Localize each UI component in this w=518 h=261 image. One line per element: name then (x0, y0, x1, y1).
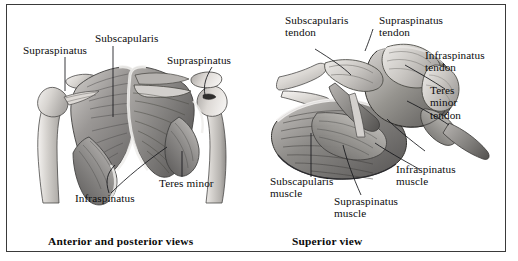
label-infraspinatus-muscle: Infraspinatus muscle (396, 163, 476, 188)
label-supraspinatus-tendon: Supraspinatus tendon (379, 14, 461, 39)
figure-frame: Supraspinatus Subscapularis Supraspinatu… (6, 4, 506, 252)
label-teres-minor-tendon: Teres minor tendon (430, 84, 490, 121)
label-line-2: muscle (334, 207, 366, 219)
label-subscapularis: Subscapularis (95, 32, 158, 44)
label-supraspinatus-anterior: Supraspinatus (23, 44, 87, 56)
label-line-1: Infraspinatus (425, 49, 485, 61)
label-supraspinatus-muscle: Supraspinatus muscle (334, 195, 418, 220)
caption-anterior-posterior-views: Anterior and posterior views (48, 235, 193, 247)
label-line-2: muscle (270, 187, 302, 199)
label-line-2: tendon (379, 26, 410, 38)
label-line-2: tendon (425, 61, 456, 73)
label-supraspinatus-posterior: Supraspinatus (167, 54, 231, 66)
label-line-1: Teres (430, 84, 455, 96)
label-subscapularis-tendon: Subscapularis tendon (285, 14, 363, 39)
label-line-2: minor (430, 96, 457, 108)
label-line-1: Subscapularis (285, 14, 348, 26)
label-infraspinatus: Infraspinatus (75, 192, 135, 204)
label-line-1: Subscapularis (270, 175, 333, 187)
label-line-2: tendon (285, 26, 316, 38)
caption-superior-view: Superior view (292, 235, 362, 247)
leader-supraspinatus-tendon (365, 29, 373, 51)
label-teres-minor: Teres minor (159, 177, 214, 189)
label-line-1: Supraspinatus (334, 195, 398, 207)
panel-anterior-posterior: Supraspinatus Subscapularis Supraspinatu… (7, 5, 259, 251)
label-infraspinatus-tendon: Infraspinatus tendon (425, 49, 505, 74)
label-line-2: muscle (396, 175, 428, 187)
label-line-3: tendon (430, 109, 461, 121)
label-line-1: Infraspinatus (396, 163, 456, 175)
panel-superior-view: Subscapularis tendon Supraspinatus tendo… (259, 5, 507, 251)
anterior-scapula-group (38, 67, 137, 205)
label-line-1: Supraspinatus (379, 14, 443, 26)
